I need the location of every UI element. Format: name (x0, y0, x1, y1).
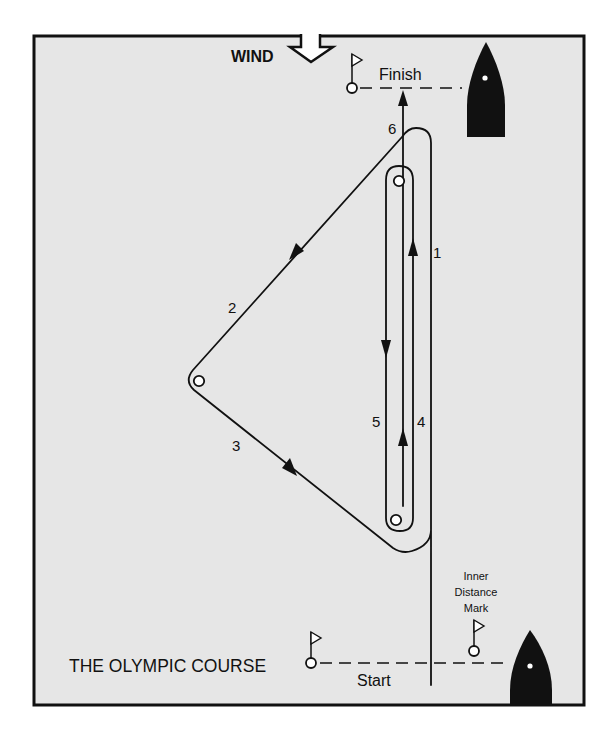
inner-distance-label-line2: Distance (455, 586, 498, 598)
wind-label: WIND (231, 48, 274, 65)
buoy-mark-icon (347, 83, 357, 93)
inner-distance-label-line1: Inner (463, 570, 488, 582)
diagram-title: THE OLYMPIC COURSE (69, 656, 266, 676)
buoy-mark-icon (306, 658, 316, 668)
wing-mark (194, 376, 204, 386)
start-label: Start (357, 672, 391, 689)
inner-distance-label-line3: Mark (464, 602, 489, 614)
leg-5-label: 5 (372, 413, 380, 430)
windward-mark (394, 176, 404, 186)
finish-label: Finish (379, 66, 422, 83)
leg-4-label: 4 (417, 413, 425, 430)
leg-6-label: 6 (388, 120, 396, 137)
leg-3-label: 3 (232, 437, 240, 454)
leeward-mark (391, 515, 401, 525)
buoy-mark-icon (469, 646, 479, 656)
olympic-course-diagram: WIND Finish 1 2 3 4 5 6 Inner Distance (0, 0, 615, 731)
leg-2-label: 2 (228, 299, 236, 316)
leg-1-label: 1 (433, 244, 441, 261)
